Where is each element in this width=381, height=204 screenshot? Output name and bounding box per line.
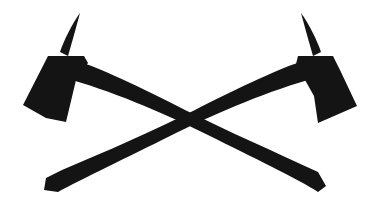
crossed-axes-emblem	[0, 0, 381, 204]
right-axe-icon	[44, 13, 357, 192]
left-axe-icon	[23, 13, 326, 192]
crossed-axes-graphic	[0, 0, 381, 204]
